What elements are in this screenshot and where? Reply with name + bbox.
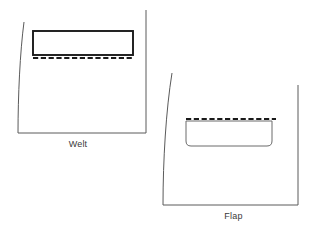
diagram-page: Welt Flap [0,0,317,239]
pocket-diagram-canvas [0,0,317,239]
caption-welt: Welt [0,139,156,149]
flap-pocket-shape [186,121,272,146]
caption-flap: Flap [157,211,310,221]
garment-panel-welt [18,10,146,133]
welt-pocket-opening [33,31,133,55]
welt-diagram-group [18,10,146,133]
flap-diagram-group [163,73,298,205]
